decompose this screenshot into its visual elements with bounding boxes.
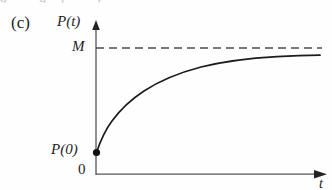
origin-label: 0 xyxy=(78,161,86,178)
x-axis-label: t xyxy=(319,176,323,190)
plot-svg xyxy=(0,0,332,190)
part-label: (c) xyxy=(11,13,30,33)
initial-value-label: P(0) xyxy=(51,141,78,158)
y-axis-label: P(t) xyxy=(57,13,80,30)
x-axis xyxy=(96,170,327,178)
asymptote-label-M: M xyxy=(72,38,85,55)
initial-point-marker xyxy=(93,149,100,156)
growth-curve xyxy=(97,55,321,152)
figure-container: g g, y (c) P(t) t M P(0) 0 xyxy=(0,0,332,190)
